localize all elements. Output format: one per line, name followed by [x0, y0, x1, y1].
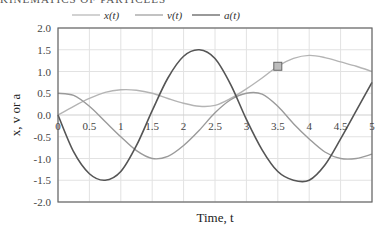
- x-axis-ticks: 00.511.522.533.544.55: [55, 120, 375, 132]
- y-axis-ticks: 2.01.51.00.50.0-0.5-1.0-1.5-2.0: [34, 22, 52, 208]
- y-axis-label: x, v or a: [8, 93, 23, 136]
- grid-lines: [58, 28, 372, 202]
- x-tick-label: 5: [369, 120, 375, 132]
- legend-label: v(t): [167, 9, 183, 22]
- line-chart: 2.01.51.00.50.0-0.5-1.0-1.5-2.0 00.511.5…: [0, 0, 384, 230]
- square-marker: [274, 62, 282, 70]
- legend-label: x(t): [103, 9, 120, 22]
- y-tick-label: -1.0: [34, 153, 52, 165]
- x-tick-label: 2: [181, 120, 187, 132]
- y-tick-label: -1.5: [34, 174, 52, 186]
- x-axis-label: Time, t: [196, 210, 233, 225]
- y-tick-label: -2.0: [34, 196, 52, 208]
- x-tick-label: 4: [306, 120, 312, 132]
- legend-label: a(t): [224, 9, 240, 22]
- x-tick-label: 1.5: [145, 120, 159, 132]
- y-tick-label: 2.0: [37, 22, 51, 34]
- x-tick-label: 4.5: [334, 120, 348, 132]
- x-tick-label: 0.5: [83, 120, 97, 132]
- x-tick-label: 1: [118, 120, 124, 132]
- y-tick-label: -0.5: [34, 131, 52, 143]
- y-tick-label: 0.0: [37, 109, 51, 121]
- x-tick-label: 0: [55, 120, 61, 132]
- x-tick-label: 3: [244, 120, 250, 132]
- square-marker-point: [274, 62, 282, 70]
- y-tick-label: 1.5: [37, 44, 51, 56]
- legend: x(t)v(t)a(t): [72, 9, 240, 22]
- x-tick-label: 3.5: [271, 120, 285, 132]
- y-tick-label: 0.5: [37, 87, 51, 99]
- x-tick-label: 2.5: [208, 120, 222, 132]
- y-tick-label: 1.0: [37, 66, 51, 78]
